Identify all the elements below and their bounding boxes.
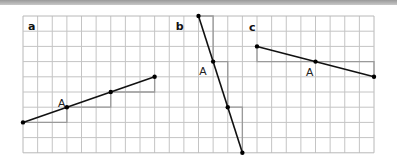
panel-label-c: c [249, 21, 256, 34]
point-label-A: A [199, 65, 207, 77]
point-label-A: A [58, 97, 66, 109]
point-dot [196, 14, 200, 18]
panel-b-line [199, 16, 243, 153]
gradient-grid-diagram: aAbAcA [0, 0, 397, 161]
point-label-A: A [306, 66, 314, 78]
panel-a-line [23, 77, 155, 123]
point-dot [21, 120, 25, 124]
point-dot [240, 151, 244, 155]
point-dot [372, 75, 376, 79]
point-dot [152, 75, 156, 79]
point-dot [211, 59, 215, 63]
square-grid [23, 16, 374, 153]
labels: aAbAcA [28, 20, 314, 109]
point-dot [313, 59, 317, 63]
point-dot [109, 90, 113, 94]
point-dot [226, 105, 230, 109]
panel-label-b: b [176, 20, 184, 33]
panel-label-a: a [28, 20, 35, 33]
point-dot [255, 44, 259, 48]
